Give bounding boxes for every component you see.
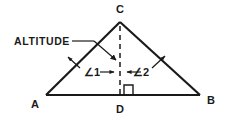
vertex-label-a: A xyxy=(31,98,39,110)
altitude-callout-label: ALTITUDE xyxy=(14,35,70,47)
vertex-label-c: C xyxy=(116,3,124,15)
geometry-diagram-canvas: ALTITUDE C A B D ∠1 ∠2 xyxy=(0,0,226,118)
side-cb xyxy=(120,22,200,95)
side-ac xyxy=(46,22,120,95)
triangle-altitude-figure: ALTITUDE C A B D ∠1 ∠2 xyxy=(0,0,226,118)
right-angle-marker xyxy=(124,85,133,95)
altitude-leader-arrow xyxy=(94,41,116,60)
angle-1-label: ∠1 xyxy=(84,66,100,78)
vertex-label-b: B xyxy=(207,94,215,106)
vertex-label-d: D xyxy=(116,103,124,115)
angle-2-label: ∠2 xyxy=(133,66,149,78)
